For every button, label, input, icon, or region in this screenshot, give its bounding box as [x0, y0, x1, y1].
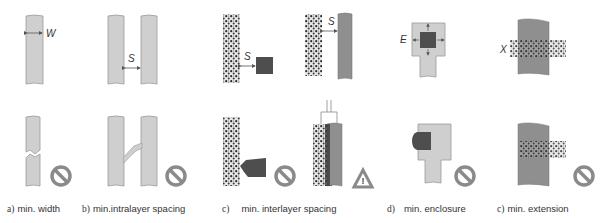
caption-c: c)min. interlayer spacing [222, 203, 336, 214]
metal-enclosure [412, 23, 445, 77]
poly-overlap [518, 40, 549, 57]
caption-d: d)min. enclosure [387, 203, 466, 214]
caption-text: min.intralayer spacing [93, 203, 185, 214]
width-label: W [46, 28, 57, 39]
caption-text: min. extension [507, 203, 568, 214]
enclosure-label: E [400, 34, 407, 45]
short-circuit-bridge [123, 143, 142, 163]
design-rules-figure: W S S S ! [0, 0, 610, 223]
via-square [420, 32, 436, 48]
spacing-label-2: S [328, 16, 335, 27]
caption-text: min. enclosure [404, 203, 466, 214]
overlap-dark-band [325, 124, 330, 186]
prohibited-icon [456, 167, 474, 185]
caption-tag: a) [7, 204, 14, 214]
panel-e-min-extension: X [499, 19, 593, 186]
metal-wire-left-short [108, 116, 124, 186]
svg-text:!: ! [362, 176, 365, 186]
spacing-label: S [244, 51, 251, 62]
metal-wire-broken-bottom [26, 154, 40, 186]
metal-wire-dark [338, 13, 352, 79]
via-square [256, 57, 273, 74]
spacing-label: S [128, 53, 135, 64]
caption-a: a)min. width [7, 203, 60, 214]
metal-wire-left [108, 15, 124, 84]
caption-tag: b) [82, 204, 90, 214]
metal-wire [26, 15, 43, 84]
warning-triangle-icon: ! [354, 170, 372, 187]
capacitor-symbol [321, 100, 337, 124]
poly-overlap [520, 141, 549, 158]
metal-wire-right-short [141, 116, 157, 186]
metal-layer-dotted [223, 117, 240, 186]
caption-text: min. width [17, 203, 60, 214]
metal-wire-broken-top [26, 116, 40, 154]
prohibited-icon [575, 167, 593, 185]
prohibited-icon [52, 167, 70, 185]
caption-tag: c) [497, 204, 504, 214]
caption-tag: c) [222, 204, 229, 214]
panel-b-min-intralayer-spacing: S [108, 15, 185, 186]
prohibited-icon [276, 167, 294, 185]
caption-text: min. interlayer spacing [241, 203, 336, 214]
panel-d-min-enclosure: E [400, 23, 474, 185]
metal-layer-dotted [305, 14, 322, 76]
caption-e: c)min. extension [497, 203, 569, 214]
prohibited-icon [167, 167, 185, 185]
caption-b: b)min.intralayer spacing [82, 203, 185, 214]
extension-label: X [499, 44, 507, 55]
caption-tag: d) [387, 204, 395, 214]
panel-a-min-width: W [26, 15, 70, 186]
metal-wire-right [141, 15, 157, 84]
panel-c-min-interlayer-spacing: S S ! [223, 13, 372, 187]
metal-layer-dotted [223, 14, 240, 83]
via-touching [240, 158, 266, 177]
via-misaligned [412, 132, 431, 150]
